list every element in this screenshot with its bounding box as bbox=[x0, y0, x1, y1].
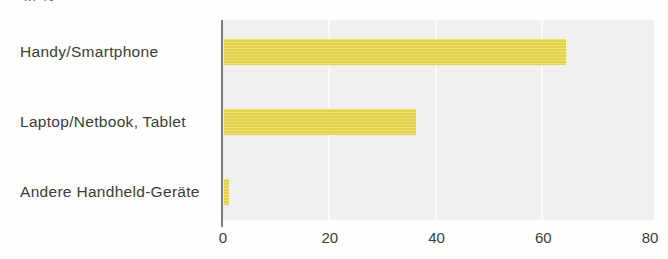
scanned-chart-page: in % Handy/SmartphoneLaptop/Netbook, Tab… bbox=[0, 0, 668, 259]
x-tick-label: 0 bbox=[219, 229, 227, 246]
bar bbox=[224, 109, 416, 135]
category-label: Andere Handheld-Geräte bbox=[20, 183, 216, 201]
bar bbox=[224, 179, 229, 205]
category-label: Handy/Smartphone bbox=[20, 43, 216, 61]
cropped-text-fragment: in % bbox=[24, 0, 55, 4]
x-tick-label: 20 bbox=[321, 229, 338, 246]
x-tick-label: 80 bbox=[642, 229, 659, 246]
category-label: Laptop/Netbook, Tablet bbox=[20, 113, 216, 131]
y-axis-line bbox=[221, 20, 223, 227]
plot-area bbox=[222, 20, 654, 220]
x-tick-label: 40 bbox=[428, 229, 445, 246]
bar bbox=[224, 39, 566, 65]
x-tick-label: 60 bbox=[535, 229, 552, 246]
